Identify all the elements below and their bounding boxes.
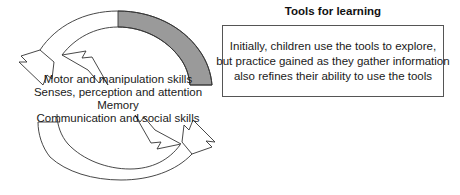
tools-panel-body-line-3: also refines their ability to use the to…: [216, 69, 449, 84]
skills-list: Motor and manipulation skills Senses, pe…: [0, 73, 236, 125]
skill-item-motor: Motor and manipulation skills: [0, 73, 236, 86]
skill-item-communication: Communication and social skills: [0, 112, 236, 125]
tools-for-learning-panel: Tools for learning Initially, children u…: [222, 4, 444, 97]
lower-arrow-outer-head: [182, 120, 215, 154]
cycle-diagram: Motor and manipulation skills Senses, pe…: [0, 0, 240, 195]
tools-panel-body-line-1: Initially, children use the tools to exp…: [216, 39, 449, 54]
lower-arrow-outer-arc: [38, 122, 192, 180]
skill-item-senses: Senses, perception and attention: [0, 86, 236, 99]
tools-panel-title: Tools for learning: [222, 4, 444, 25]
diagram-canvas: Motor and manipulation skills Senses, pe…: [0, 0, 460, 195]
skill-item-memory: Memory: [0, 99, 236, 112]
tools-panel-body: Initially, children use the tools to exp…: [216, 39, 449, 84]
tools-panel-box: Initially, children use the tools to exp…: [222, 25, 444, 97]
tools-panel-body-line-2: but practice gained as they gather infor…: [216, 54, 449, 69]
